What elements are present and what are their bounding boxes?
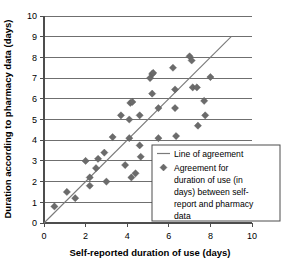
x-tick-label-6: 6 [166, 231, 171, 241]
data-point [169, 64, 176, 71]
x-tick-label-4: 4 [125, 231, 130, 241]
legend-label-agreement-line-1: Agreement for [174, 163, 229, 173]
chart-legend: Line of agreement Agreement for duration… [152, 145, 280, 221]
data-point [136, 142, 143, 149]
y-tick-label-9: 9 [32, 32, 37, 42]
y-tick-label-7: 7 [32, 73, 37, 83]
legend-label-line-of-agreement: Line of agreement [174, 149, 244, 159]
x-axis-title: Self-reported duration of use (days) [70, 247, 231, 258]
y-tick-label-1: 1 [32, 198, 37, 208]
y-tick-label-10: 10 [27, 11, 37, 21]
data-point [172, 132, 179, 139]
y-tick-label-0: 0 [32, 218, 37, 228]
data-point [122, 161, 129, 168]
data-point [117, 112, 124, 119]
data-point [171, 105, 178, 112]
data-point [155, 105, 162, 112]
data-point [101, 149, 108, 156]
data-point [202, 112, 209, 119]
data-point [109, 133, 116, 140]
y-tick-label-6: 6 [32, 94, 37, 104]
data-point [82, 157, 89, 164]
legend-label-agreement-line-3: days) between self- [174, 187, 249, 197]
x-axis-tick-labels: 0246810 [41, 231, 257, 241]
data-point [193, 84, 200, 91]
y-tick-label-8: 8 [32, 53, 37, 63]
y-axis-tick-labels: 012345678910 [27, 11, 37, 228]
y-tick-label-2: 2 [32, 177, 37, 187]
data-point [136, 112, 143, 119]
y-axis-title: Duration according to pharmacy data (day… [2, 19, 13, 218]
y-tick-label-4: 4 [32, 135, 37, 145]
data-point [63, 188, 70, 195]
data-point [194, 122, 201, 129]
x-tick-label-8: 8 [208, 231, 213, 241]
x-tick-label-10: 10 [247, 231, 257, 241]
y-tick-label-5: 5 [32, 115, 37, 125]
chart-canvas: 012345678910 0246810 Duration according … [0, 0, 284, 262]
legend-label-agreement-line-4: report and pharmacy [174, 199, 254, 209]
x-tick-label-0: 0 [41, 231, 46, 241]
y-tick-label-3: 3 [32, 156, 37, 166]
x-tick-label-2: 2 [83, 231, 88, 241]
scatter-chart: 012345678910 0246810 Duration according … [0, 0, 284, 262]
data-point [137, 153, 144, 160]
data-point [72, 195, 79, 202]
data-point [126, 116, 133, 123]
data-point [171, 86, 178, 93]
data-point [103, 178, 110, 185]
data-point [51, 203, 58, 210]
legend-label-agreement-line-5: data [174, 211, 191, 221]
data-point [149, 90, 156, 97]
legend-label-agreement-line-2: duration of use (in [174, 175, 243, 185]
data-point [207, 73, 214, 80]
data-point [92, 165, 99, 172]
data-point [86, 182, 93, 189]
